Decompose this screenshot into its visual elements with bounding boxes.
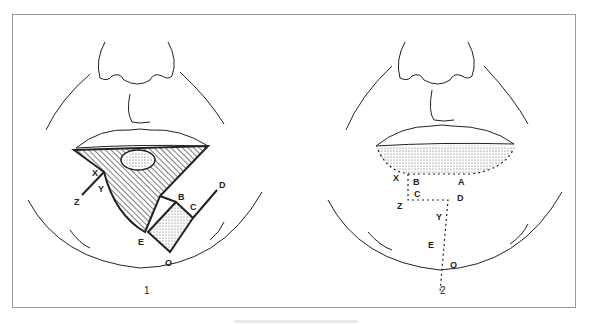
label-x: X — [393, 173, 399, 183]
label-c: C — [414, 189, 421, 199]
label-z: Z — [397, 201, 403, 211]
label-y: Y — [98, 184, 104, 194]
label-e: E — [138, 237, 144, 247]
label-b: B — [178, 192, 185, 202]
label-o: O — [165, 258, 172, 268]
panel-2: X B A C Z D Y E O 2 — [328, 42, 562, 296]
label-d: D — [219, 180, 226, 190]
label-y: Y — [436, 212, 442, 222]
label-b: B — [413, 177, 420, 187]
lip-reconstruction-diagram: X Y Z B C D E O 1 X B A C Z D Y E O 2 — [0, 0, 589, 324]
label-o: O — [450, 260, 457, 270]
label-d: D — [457, 193, 464, 203]
label-x: X — [92, 168, 98, 178]
panel-1-caption: 1 — [144, 285, 150, 296]
label-e: E — [428, 240, 434, 250]
label-c: C — [190, 202, 197, 212]
panel-2-caption: 2 — [440, 285, 446, 296]
label-a: A — [458, 177, 465, 187]
panel-1: X Y Z B C D E O 1 — [28, 42, 262, 296]
label-z: Z — [74, 197, 80, 207]
